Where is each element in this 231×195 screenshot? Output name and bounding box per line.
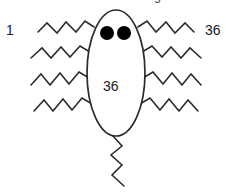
right-index-label: 36 xyxy=(205,22,221,38)
body-count-label: 36 xyxy=(103,78,119,94)
left-legs-group xyxy=(31,21,94,111)
left-leg-1 xyxy=(38,21,94,33)
right-leg-1 xyxy=(138,21,194,33)
right-eye-icon xyxy=(117,26,131,40)
diagram-canvas: A schematic of the organism 1 36 36 xyxy=(0,0,231,195)
left-index-label: 1 xyxy=(6,22,14,38)
body-outline xyxy=(87,10,145,136)
right-leg-2 xyxy=(142,46,201,58)
right-leg-3 xyxy=(143,72,201,85)
tail-zigzag xyxy=(111,136,124,186)
organism-schematic-svg xyxy=(0,0,231,195)
left-leg-4 xyxy=(34,98,92,111)
right-legs-group xyxy=(138,21,201,111)
left-eye-icon xyxy=(100,26,114,40)
left-leg-3 xyxy=(31,72,89,85)
right-leg-4 xyxy=(140,98,198,111)
left-leg-2 xyxy=(31,46,90,58)
